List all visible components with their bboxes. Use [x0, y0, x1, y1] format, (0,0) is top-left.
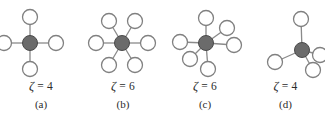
- neighbor-node-d-lower-right: [306, 63, 321, 78]
- neighbor-node-d-up: [294, 12, 309, 27]
- diagram-canvas-d: [246, 0, 325, 80]
- zeta-label-b: ζ = 6: [82, 80, 164, 93]
- neighbor-node-c-upper-right-short: [220, 21, 235, 36]
- node-diagram-c: [164, 0, 246, 80]
- panel-index-label-d: (d): [246, 98, 325, 111]
- center-node-a: [23, 36, 38, 51]
- neighbor-node-c-right: [227, 38, 242, 53]
- zeta-equals-c: =: [201, 80, 208, 92]
- neighbor-node-c-down: [201, 62, 216, 77]
- zeta-equals-d: =: [282, 80, 289, 92]
- neighbor-node-b-lower-right: [128, 58, 143, 73]
- neighbor-node-b-lower-left: [102, 58, 117, 73]
- neighbor-node-c-up: [199, 11, 214, 26]
- zeta-label-a: ζ = 4: [0, 80, 82, 93]
- neighbor-node-b-left: [89, 36, 104, 51]
- neighbor-node-d-right-close: [313, 48, 325, 63]
- center-node-d: [295, 43, 310, 58]
- diagram-canvas-b: [82, 0, 164, 80]
- neighbor-node-c-lower-left-short: [183, 52, 198, 67]
- diagram-canvas-c: [164, 0, 246, 80]
- center-node-b: [115, 36, 130, 51]
- neighbor-node-b-right: [141, 36, 156, 51]
- zeta-equals-a: =: [37, 80, 44, 92]
- zeta-value-c: 6: [211, 80, 217, 92]
- center-node-c: [199, 36, 214, 51]
- zeta-equals-b: =: [119, 80, 126, 92]
- node-diagram-b: [82, 0, 164, 80]
- panel-d: ζ = 4(d): [246, 0, 325, 123]
- zeta-symbol-b: ζ: [111, 79, 116, 93]
- zeta-value-d: 4: [292, 80, 298, 92]
- zeta-label-c: ζ = 6: [164, 80, 246, 93]
- zeta-symbol-c: ζ: [193, 79, 198, 93]
- neighbor-node-c-left: [173, 35, 188, 50]
- neighbor-node-a-right: [49, 36, 64, 51]
- panel-index-label-b: (b): [82, 98, 164, 111]
- zeta-label-d: ζ = 4: [246, 80, 325, 93]
- coordination-number-figure: ζ = 4(a)ζ = 6(b)ζ = 6(c)ζ = 4(d): [0, 0, 325, 123]
- zeta-value-b: 6: [129, 80, 135, 92]
- neighbor-node-d-lower-left: [268, 55, 283, 70]
- panel-index-label-a: (a): [0, 98, 82, 111]
- neighbor-node-a-down: [23, 62, 38, 77]
- neighbor-node-a-left: [0, 36, 12, 51]
- zeta-symbol-d: ζ: [273, 79, 278, 93]
- zeta-symbol-a: ζ: [29, 79, 34, 93]
- node-diagram-d: [246, 0, 325, 80]
- panel-b: ζ = 6(b): [82, 0, 164, 123]
- node-diagram-a: [0, 0, 82, 80]
- neighbor-node-b-upper-right: [128, 14, 143, 29]
- neighbor-node-a-up: [23, 10, 38, 25]
- panel-a: ζ = 4(a): [0, 0, 82, 123]
- panel-index-label-c: (c): [164, 98, 246, 111]
- panel-c: ζ = 6(c): [164, 0, 246, 123]
- zeta-value-a: 4: [47, 80, 53, 92]
- neighbor-node-b-upper-left: [102, 14, 117, 29]
- diagram-canvas-a: [0, 0, 82, 80]
